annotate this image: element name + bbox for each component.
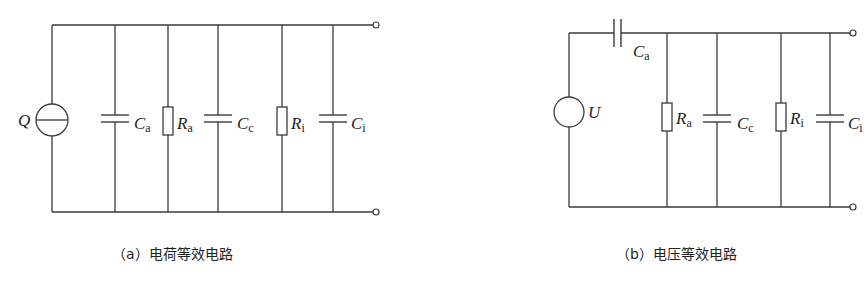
label-cc: Cc	[237, 114, 254, 135]
source-label-u: U	[588, 103, 602, 122]
source-label-q: Q	[18, 111, 30, 130]
capacitor-cc	[204, 25, 232, 212]
capacitor-cc	[703, 33, 731, 207]
caption-a: （a）电荷等效电路	[112, 243, 233, 263]
resistor-ra	[662, 33, 672, 207]
capacitor-ci	[319, 25, 347, 212]
caption-b: （b）电压等效电路	[616, 243, 737, 263]
label-ci: Ci	[848, 114, 863, 135]
label-ra: Ra	[176, 114, 193, 135]
resistor-ri	[776, 33, 786, 207]
output-terminal-top	[850, 30, 856, 36]
output-terminal-bottom	[373, 209, 379, 215]
label-ri: Ri	[789, 109, 804, 130]
resistor-ra	[163, 25, 173, 212]
label-series-ca: Ca	[633, 42, 650, 63]
label-ra: Ra	[675, 109, 692, 130]
capacitor-ci	[816, 33, 844, 207]
label-ci: Ci	[351, 114, 366, 135]
output-terminal-bottom	[850, 204, 856, 210]
label-cc: Cc	[737, 114, 754, 135]
voltage-equivalent-circuit: Ca U Ra Cc Ri	[554, 19, 863, 210]
series-capacitor-ca	[614, 19, 621, 47]
charge-source-icon	[36, 104, 68, 136]
label-ca: Ca	[134, 114, 151, 135]
label-ri: Ri	[290, 114, 305, 135]
resistor-ri	[277, 25, 287, 212]
output-terminal-top	[373, 22, 379, 28]
voltage-source-icon	[554, 97, 584, 127]
capacitor-ca	[101, 25, 129, 212]
charge-equivalent-circuit: Q Ca Ra Cc Ri	[18, 22, 379, 215]
